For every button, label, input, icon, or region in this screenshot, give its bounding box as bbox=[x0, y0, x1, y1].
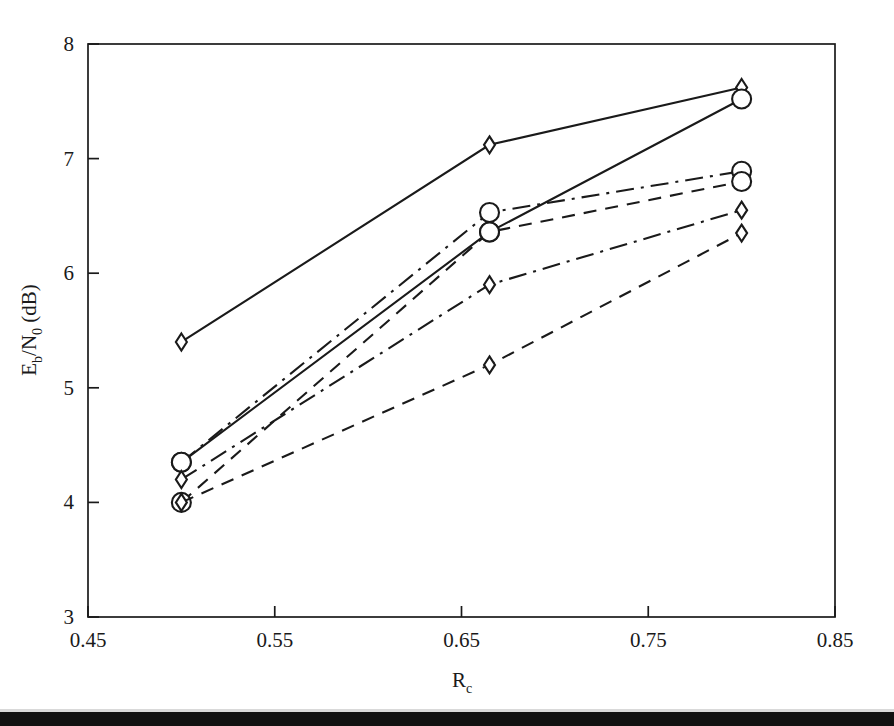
marker-circle bbox=[172, 453, 191, 472]
series-series-1 bbox=[176, 79, 747, 350]
y-tick-label: 7 bbox=[64, 147, 75, 171]
svg-text:Rc: Rc bbox=[452, 668, 472, 696]
marker-diamond bbox=[176, 471, 187, 488]
y-axis-ticks: 345678 bbox=[64, 32, 100, 629]
line-chart: 345678 0.450.550.650.750.85 Eb/N0 (dB) R… bbox=[0, 0, 894, 726]
ylabel-units: (dB) bbox=[17, 284, 41, 328]
marker-diamond bbox=[736, 202, 747, 219]
x-axis-title: Rc bbox=[452, 668, 472, 696]
y-tick-label: 6 bbox=[64, 261, 75, 285]
x-tick-label: 0.65 bbox=[443, 628, 480, 652]
series-line bbox=[181, 233, 741, 502]
ylabel-slash-n: /N bbox=[17, 335, 41, 356]
figure-canvas: 345678 0.450.550.650.750.85 Eb/N0 (dB) R… bbox=[0, 0, 894, 726]
ylabel-zero: 0 bbox=[30, 328, 45, 335]
y-tick-label: 3 bbox=[64, 605, 75, 629]
marker-circle bbox=[480, 222, 499, 241]
series-series-5 bbox=[176, 202, 747, 488]
marker-diamond bbox=[484, 136, 495, 153]
marker-circle bbox=[480, 203, 499, 222]
y-tick-label: 4 bbox=[64, 490, 75, 514]
svg-text:Eb/N0 (dB): Eb/N0 (dB) bbox=[17, 284, 45, 376]
ylabel-b: b bbox=[30, 356, 45, 363]
series-series-4 bbox=[172, 172, 751, 512]
marker-diamond bbox=[176, 333, 187, 350]
marker-circle bbox=[732, 172, 751, 191]
marker-diamond bbox=[484, 356, 495, 373]
marker-diamond bbox=[484, 276, 495, 293]
series-layer bbox=[172, 79, 751, 512]
series-series-6 bbox=[176, 225, 747, 511]
x-tick-label: 0.55 bbox=[256, 628, 293, 652]
x-axis-ticks: 0.450.550.650.750.85 bbox=[70, 606, 854, 652]
scan-black-bar bbox=[0, 712, 894, 726]
series-line bbox=[181, 88, 741, 342]
series-line bbox=[181, 210, 741, 479]
x-tick-label: 0.85 bbox=[817, 628, 854, 652]
series-line bbox=[181, 99, 741, 462]
marker-circle bbox=[732, 90, 751, 109]
series-series-3 bbox=[172, 162, 751, 472]
ylabel-e: E bbox=[17, 363, 41, 376]
series-line bbox=[181, 182, 741, 503]
series-line bbox=[181, 171, 741, 462]
xlabel-sub: c bbox=[466, 681, 472, 696]
x-tick-label: 0.45 bbox=[70, 628, 107, 652]
marker-diamond bbox=[736, 225, 747, 242]
y-tick-label: 5 bbox=[64, 376, 75, 400]
xlabel-base: R bbox=[452, 668, 466, 692]
series-series-2 bbox=[172, 90, 751, 472]
y-tick-label: 8 bbox=[64, 32, 75, 56]
x-tick-label: 0.75 bbox=[630, 628, 667, 652]
y-axis-title: Eb/N0 (dB) bbox=[17, 284, 45, 376]
